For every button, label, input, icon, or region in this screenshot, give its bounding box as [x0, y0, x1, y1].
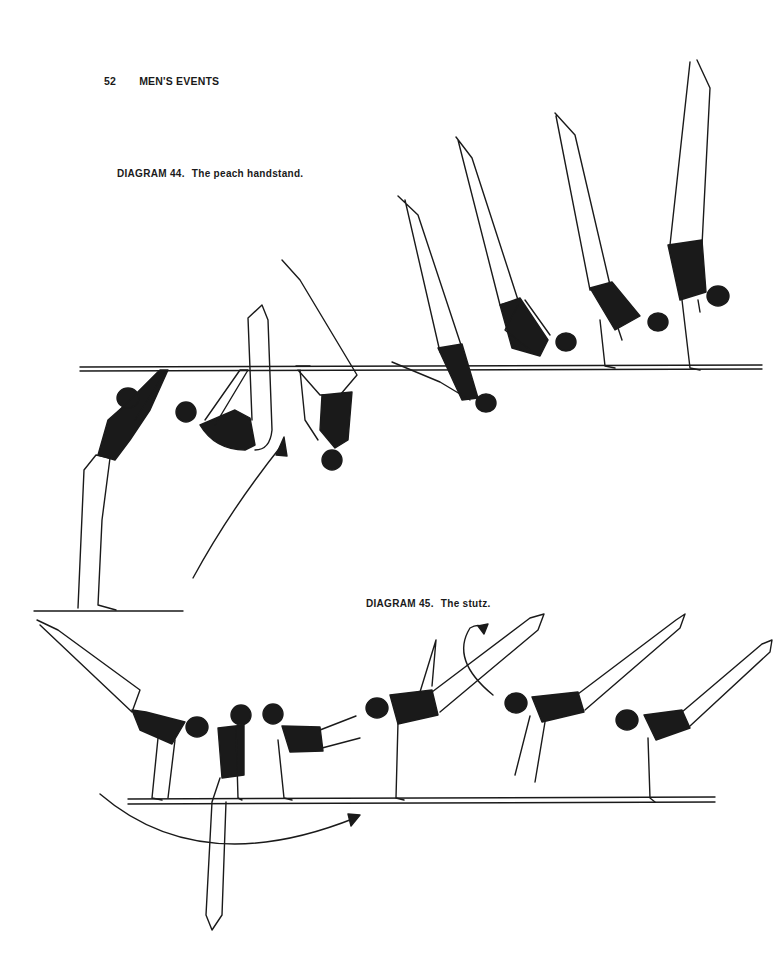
- stutz-figure-1: [37, 620, 208, 800]
- stutz-figure-3: [263, 704, 360, 800]
- stutz-figure-2: [206, 705, 251, 930]
- stutz-figure-6: [616, 640, 772, 802]
- diagram-45-illustration: [0, 0, 775, 972]
- swing-arrow-2: [100, 794, 355, 844]
- twist-arrow: [464, 625, 493, 695]
- parallel-bar: [128, 797, 715, 804]
- arrow-head-icon: [348, 814, 360, 826]
- arrow-head-icon: [478, 624, 488, 634]
- stutz-figure-5: [505, 614, 685, 782]
